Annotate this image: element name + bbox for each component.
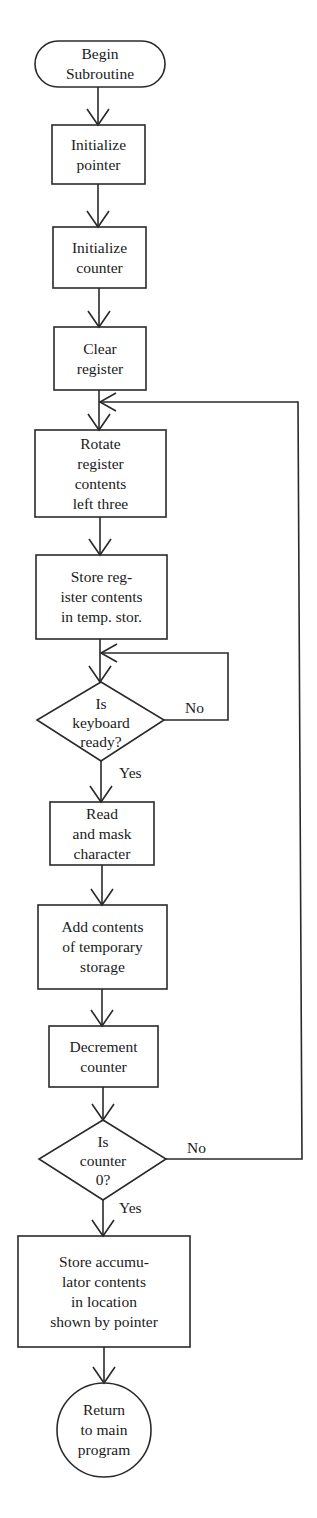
decrement-counter-label: Decrement counter bbox=[49, 1026, 158, 1087]
flowchart-canvas: Begin Subroutine Initialize pointer Init… bbox=[0, 0, 317, 1518]
counter-yes-label: Yes bbox=[119, 1199, 142, 1217]
keyboard-ready-label: Is keyboard ready? bbox=[51, 686, 151, 758]
rotate-register-label: Rotate register contents left three bbox=[35, 430, 166, 517]
keyboard-yes-label: Yes bbox=[119, 764, 142, 782]
add-contents-label: Add contents of temporary storage bbox=[38, 905, 167, 989]
read-mask-label: Read and mask character bbox=[50, 802, 154, 865]
begin-label: Begin Subroutine bbox=[35, 41, 165, 87]
counter-no-label: No bbox=[187, 1139, 206, 1157]
store-accumulator-label: Store accumu- lator contents in location… bbox=[18, 1236, 190, 1347]
counter-zero-label: Is counter 0? bbox=[53, 1124, 153, 1196]
store-register-label: Store reg- ister contents in temp. stor. bbox=[36, 555, 167, 639]
init-counter-label: Initialize counter bbox=[53, 227, 146, 288]
init-pointer-label: Initialize pointer bbox=[52, 125, 145, 184]
clear-register-label: Clear register bbox=[54, 327, 146, 390]
return-label: Return to main program bbox=[57, 1383, 151, 1477]
keyboard-no-label: No bbox=[185, 699, 204, 717]
